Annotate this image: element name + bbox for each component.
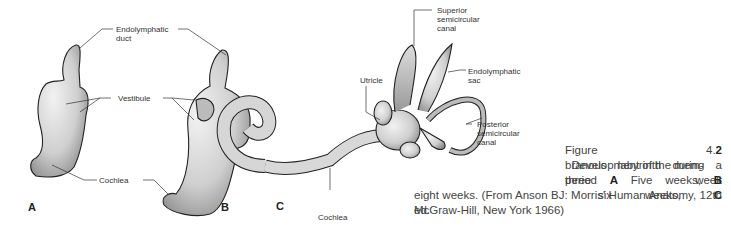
panel-b-drawing	[163, 50, 250, 216]
label-posterior-semicircular-canal: Posterior semicircular canal	[477, 120, 520, 147]
panel-a-drawing	[31, 45, 88, 177]
panel-c-drawing	[224, 44, 484, 168]
panel-letter-b: B	[221, 201, 229, 213]
label-vestibule: Vestibule	[118, 94, 150, 103]
label-endolymphatic-sac: Endolymphatic sac	[468, 67, 520, 85]
panel-letter-a: A	[28, 201, 36, 213]
label-endolymphatic-duct: Endolymphatic duct	[116, 25, 168, 43]
label-utricle: Utricle	[360, 76, 383, 85]
caption-line-5: McGraw-Hill, New York 1966)	[414, 203, 722, 218]
label-cochlea-ab: Cochlea	[99, 176, 128, 185]
label-cochlea-c: Cochlea	[318, 213, 347, 222]
label-superior-semicircular-canal: Superior semicircular canal	[437, 6, 480, 33]
panel-letter-c: C	[276, 200, 284, 212]
